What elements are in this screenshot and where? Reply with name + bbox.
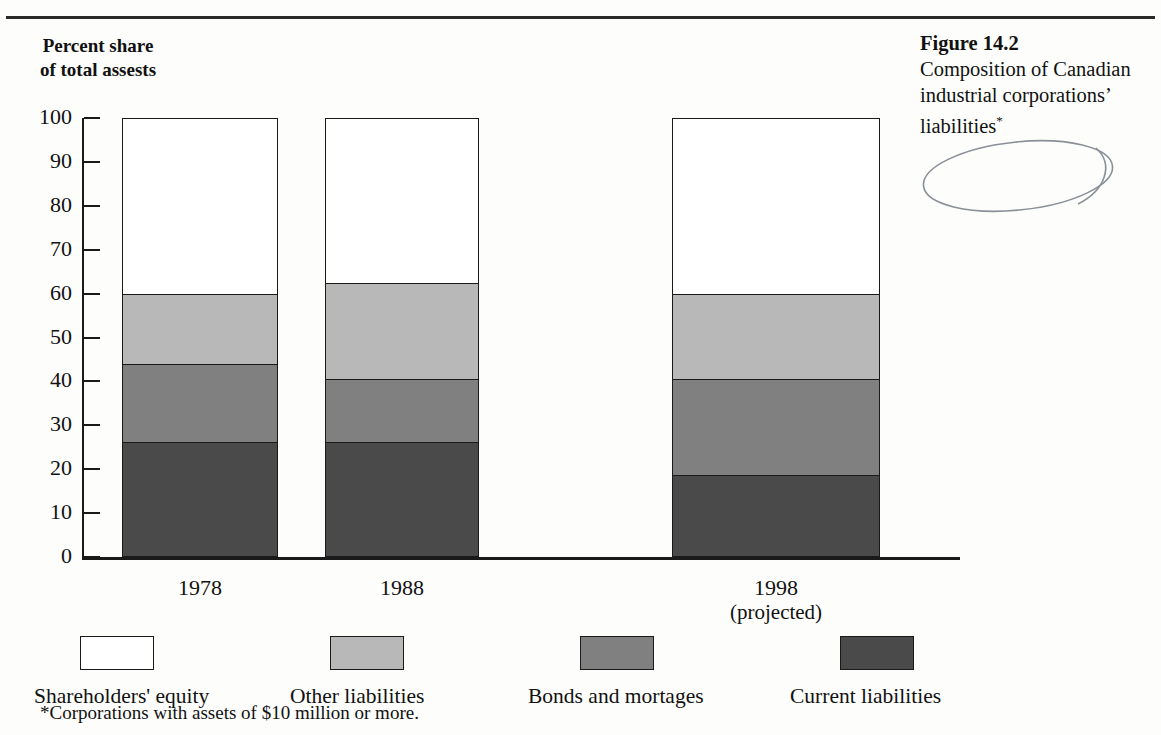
- bar-segment-shareholders-equity: [673, 119, 879, 294]
- y-tick-label-70: 70: [12, 238, 72, 260]
- y-tick-label-40: 40: [12, 369, 72, 391]
- y-tick-label-80: 80: [12, 194, 72, 216]
- bar-segment-shareholders-equity: [326, 119, 478, 283]
- top-divider-rule: [6, 16, 1155, 19]
- stacked-bar-1998: [672, 118, 880, 557]
- bar-segment-current-liabilities: [123, 442, 277, 556]
- bar-segment-bonds-and-mortages: [123, 364, 277, 443]
- bar-segment-other-liabilities: [326, 283, 478, 379]
- bar-segment-bonds-and-mortages: [326, 379, 478, 442]
- y-axis-title: Percent share of total assests: [38, 34, 158, 81]
- y-tick-50: [84, 337, 100, 339]
- x-label-year: 1988: [380, 575, 424, 600]
- bar-segment-bonds-and-mortages: [673, 379, 879, 475]
- figure-page: Figure 14.2 Composition of Canadian indu…: [0, 0, 1161, 735]
- figure-number: Figure 14.2: [920, 30, 1155, 56]
- chart-legend: Shareholders' equityOther liabilitiesBon…: [0, 636, 1161, 696]
- bar-segment-current-liabilities: [673, 475, 879, 556]
- y-tick-label-90: 90: [12, 150, 72, 172]
- legend-label-2: Bonds and mortages: [528, 684, 704, 708]
- bar-segment-other-liabilities: [673, 294, 879, 379]
- figure-footnote: *Corporations with assets of $10 million…: [40, 702, 419, 724]
- x-label-year: 1998: [754, 575, 798, 600]
- y-tick-label-10: 10: [12, 501, 72, 523]
- y-tick-70: [84, 249, 100, 251]
- bar-segment-shareholders-equity: [123, 119, 277, 294]
- y-tick-label-60: 60: [12, 282, 72, 304]
- y-tick-40: [84, 380, 100, 382]
- x-label-1998: 1998(projected): [632, 575, 920, 625]
- bar-segment-other-liabilities: [123, 294, 277, 364]
- legend-swatch-other-liabilities: [330, 636, 404, 670]
- y-tick-label-50: 50: [12, 326, 72, 348]
- y-axis-tick-labels: 0102030405060708090100: [8, 118, 72, 557]
- plot-area: 0102030405060708090100 197819881998(proj…: [82, 118, 960, 557]
- y-tick-80: [84, 205, 100, 207]
- y-tick-label-30: 30: [12, 413, 72, 435]
- stacked-bar-1978: [122, 118, 278, 557]
- y-tick-90: [84, 161, 100, 163]
- x-label-1978: 1978: [82, 575, 318, 600]
- x-label-sublabel: (projected): [632, 600, 920, 625]
- x-label-1988: 1988: [285, 575, 519, 600]
- y-tick-0: [84, 556, 100, 558]
- y-tick-30: [84, 424, 100, 426]
- legend-swatch-shareholders-equity: [80, 636, 154, 670]
- y-tick-60: [84, 293, 100, 295]
- legend-label-3: Current liabilities: [790, 684, 941, 708]
- x-label-year: 1978: [178, 575, 222, 600]
- figure-caption-asterisk: *: [996, 113, 1003, 128]
- legend-swatch-bonds-and-mortages: [580, 636, 654, 670]
- y-tick-label-0: 0: [12, 545, 72, 567]
- x-axis-line: [82, 557, 960, 560]
- y-tick-10: [84, 512, 100, 514]
- bar-segment-current-liabilities: [326, 442, 478, 556]
- legend-swatch-current-liabilities: [840, 636, 914, 670]
- y-tick-label-100: 100: [12, 106, 72, 128]
- y-tick-20: [84, 468, 100, 470]
- y-tick-label-20: 20: [12, 457, 72, 479]
- y-tick-100: [84, 117, 100, 119]
- stacked-bar-1988: [325, 118, 479, 557]
